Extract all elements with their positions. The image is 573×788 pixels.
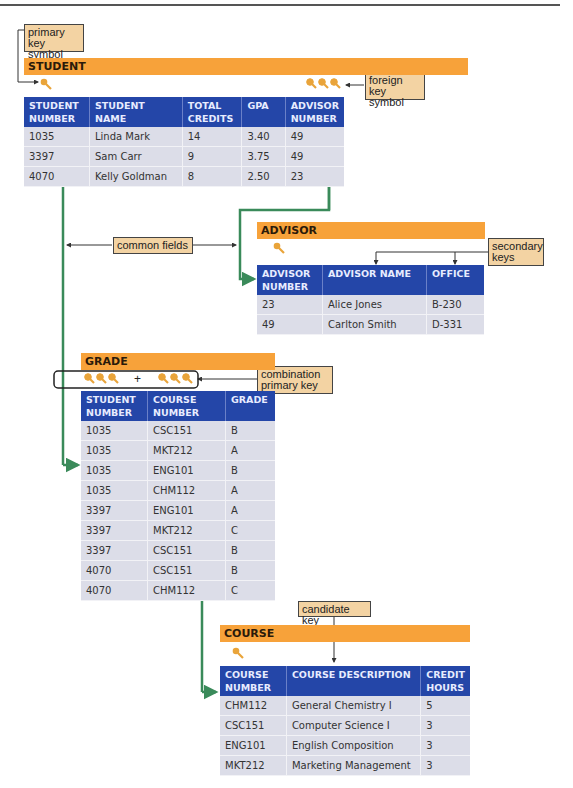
cell: 4070 <box>81 561 148 581</box>
cell: 8 <box>182 167 242 187</box>
cell: ENG101 <box>148 461 226 481</box>
table-row: 4070CSC151B <box>81 561 275 581</box>
cell: 1035 <box>81 441 148 461</box>
course-table: COURSE NUMBER COURSE DESCRIPTION CREDIT … <box>220 666 470 776</box>
cell: MKT212 <box>148 521 226 541</box>
foreign-key-callout: foreign key symbol <box>365 72 425 100</box>
column-header: COURSE NUMBER <box>220 666 286 696</box>
cell: 4070 <box>24 167 90 187</box>
cell: C <box>226 581 276 601</box>
table-row: 1035Linda Mark143.4049 <box>24 127 344 147</box>
cell: 23 <box>257 295 323 315</box>
cell: 3397 <box>24 147 90 167</box>
cell: 2.50 <box>242 167 285 187</box>
column-header: ADVISOR NUMBER <box>285 97 344 127</box>
table-row: 3397MKT212C <box>81 521 275 541</box>
cell: 3.75 <box>242 147 285 167</box>
cell: 1035 <box>81 461 148 481</box>
cell: 49 <box>285 127 344 147</box>
cell: 1035 <box>81 421 148 441</box>
column-header: STUDENT NUMBER <box>24 97 90 127</box>
table-row: 3397Sam Carr93.7549 <box>24 147 344 167</box>
column-header: STUDENT NUMBER <box>81 391 148 421</box>
cell: 49 <box>257 315 323 335</box>
table-row: 3397CSC151B <box>81 541 275 561</box>
advisor-title-bar: ADVISOR <box>257 222 485 239</box>
cell: 3 <box>421 716 470 736</box>
key-icon <box>158 373 194 385</box>
table-row: 1035ENG101B <box>81 461 275 481</box>
cell: CHM112 <box>220 696 286 716</box>
combination-primary-key-callout: combination primary key <box>257 366 333 394</box>
cell: 3397 <box>81 521 148 541</box>
cell: MKT212 <box>220 756 286 776</box>
cell: Sam Carr <box>90 147 183 167</box>
cell: CSC151 <box>148 421 226 441</box>
cell: Carlton Smith <box>323 315 427 335</box>
table-row: 4070Kelly Goldman82.5023 <box>24 167 344 187</box>
cell: 3397 <box>81 541 148 561</box>
advisor-table: ADVISOR NUMBER ADVISOR NAME OFFICE 23Ali… <box>257 265 484 335</box>
cell: MKT212 <box>148 441 226 461</box>
table-row: ENG101English Composition3 <box>220 736 470 756</box>
key-icon <box>84 373 120 385</box>
cell: CHM112 <box>148 481 226 501</box>
table-row: 4070CHM112C <box>81 581 275 601</box>
column-header: ADVISOR NAME <box>323 265 427 295</box>
cell: A <box>226 441 276 461</box>
key-icon <box>273 242 285 254</box>
cell: CSC151 <box>148 541 226 561</box>
table-row: CSC151Computer Science I3 <box>220 716 470 736</box>
plus-sign: + <box>134 372 141 386</box>
cell: A <box>226 481 276 501</box>
secondary-keys-callout: secondary keys <box>488 238 544 266</box>
cell: 3397 <box>81 501 148 521</box>
cell: 5 <box>421 696 470 716</box>
cell: A <box>226 501 276 521</box>
table-row: 23Alice JonesB-230 <box>257 295 484 315</box>
cell: ENG101 <box>220 736 286 756</box>
cell: 9 <box>182 147 242 167</box>
column-header: ADVISOR NUMBER <box>257 265 323 295</box>
cell: CSC151 <box>148 561 226 581</box>
table-row: CHM112General Chemistry I5 <box>220 696 470 716</box>
candidate-key-callout: candidate key <box>298 601 371 617</box>
table-row: 3397ENG101A <box>81 501 275 521</box>
cell: ENG101 <box>148 501 226 521</box>
cell: General Chemistry I <box>286 696 420 716</box>
cell: Kelly Goldman <box>90 167 183 187</box>
course-title-bar: COURSE <box>220 625 470 642</box>
column-header: TOTAL CREDITS <box>182 97 242 127</box>
cell: Linda Mark <box>90 127 183 147</box>
cell: Alice Jones <box>323 295 427 315</box>
cell: Marketing Management <box>286 756 420 776</box>
cell: B-230 <box>427 295 485 315</box>
key-icon <box>306 78 342 90</box>
column-header: OFFICE <box>427 265 485 295</box>
column-header: GPA <box>242 97 285 127</box>
column-header: CREDIT HOURS <box>421 666 470 696</box>
table-row: 1035MKT212A <box>81 441 275 461</box>
cell: 1035 <box>81 481 148 501</box>
cell: 49 <box>285 147 344 167</box>
primary-key-callout: primary key symbol <box>24 24 84 52</box>
column-header: COURSE NUMBER <box>148 391 226 421</box>
cell: B <box>226 561 276 581</box>
cell: C <box>226 521 276 541</box>
table-row: 49Carlton SmithD-331 <box>257 315 484 335</box>
cell: D-331 <box>427 315 485 335</box>
column-header: STUDENT NAME <box>90 97 183 127</box>
cell: English Composition <box>286 736 420 756</box>
cell: B <box>226 421 276 441</box>
grade-table: STUDENT NUMBER COURSE NUMBER GRADE 1035C… <box>81 391 275 601</box>
cell: 4070 <box>81 581 148 601</box>
cell: B <box>226 541 276 561</box>
student-title-bar: STUDENT <box>24 58 468 75</box>
table-row: 1035CHM112A <box>81 481 275 501</box>
cell: Computer Science I <box>286 716 420 736</box>
cell: CHM112 <box>148 581 226 601</box>
column-header: COURSE DESCRIPTION <box>286 666 420 696</box>
key-icon <box>40 78 52 90</box>
table-row: 1035CSC151B <box>81 421 275 441</box>
student-table: STUDENT NUMBER STUDENT NAME TOTAL CREDIT… <box>24 97 344 187</box>
